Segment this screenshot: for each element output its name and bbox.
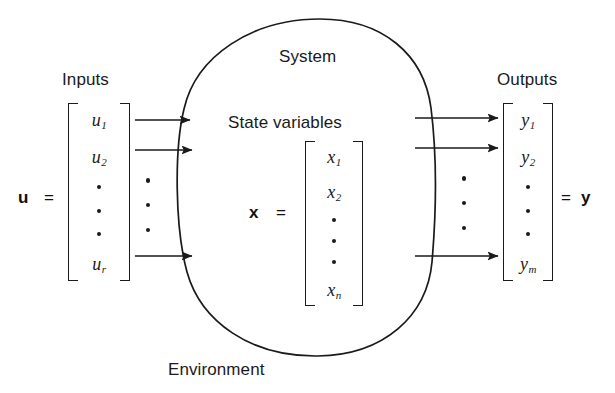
input-arrow-dot-3 xyxy=(146,228,151,233)
output-bracket-left xyxy=(503,103,513,281)
state-ellipsis-dot-1 xyxy=(332,218,336,222)
output-arrow-dot-1 xyxy=(462,176,467,181)
system-block-diagram: Inputs System State variables Outputs En… xyxy=(0,0,615,393)
output-arrow-dot-2 xyxy=(462,201,467,206)
state-vector-bracket: x1 x2 xn xyxy=(305,141,363,306)
output-arrow-ellipsis xyxy=(461,176,467,230)
input-ellipsis-dot-1 xyxy=(97,185,101,189)
output-vector-bracket: y1 y2 ym xyxy=(503,103,553,281)
input-entry-2: u2 xyxy=(92,148,107,166)
state-entry-last: xn xyxy=(327,281,341,299)
state-ellipsis-dot-2 xyxy=(332,239,336,243)
state-vector-equals: = xyxy=(276,203,286,223)
environment-label: Environment xyxy=(168,360,265,380)
state-variables-label: State variables xyxy=(228,113,342,133)
state-bracket-right xyxy=(353,141,363,306)
input-bracket-right xyxy=(120,103,130,281)
output-entry-last: ym xyxy=(520,255,536,273)
output-ellipsis-dot-2 xyxy=(526,209,530,213)
outputs-label: Outputs xyxy=(497,70,557,90)
input-arrow-dot-1 xyxy=(146,178,151,183)
input-bracket-left xyxy=(68,103,78,281)
state-entry-1: x1 xyxy=(327,148,341,166)
input-vector-equals: = xyxy=(44,188,54,208)
output-arrow-dot-3 xyxy=(462,226,467,231)
input-entry-last: ur xyxy=(92,255,105,273)
input-ellipsis-dot-3 xyxy=(97,232,101,236)
input-vector-name: u xyxy=(18,188,28,208)
output-vector-name: y xyxy=(581,188,590,208)
state-bracket-left xyxy=(305,141,315,306)
output-ellipsis-dot-1 xyxy=(526,185,530,189)
output-vector-equals: = xyxy=(561,188,571,208)
state-entry-2: x2 xyxy=(327,183,341,201)
output-entry-1: y1 xyxy=(521,111,535,129)
output-bracket-right xyxy=(543,103,553,281)
input-entry-1: u1 xyxy=(92,111,107,129)
inputs-label: Inputs xyxy=(62,70,109,90)
input-vector-bracket: u1 u2 ur xyxy=(68,103,130,281)
output-ellipsis-dot-3 xyxy=(526,232,530,236)
input-arrow-dot-2 xyxy=(146,203,151,208)
output-entry-2: y2 xyxy=(521,148,535,166)
state-vector-name: x xyxy=(249,203,258,223)
input-arrow-ellipsis xyxy=(145,178,151,232)
state-ellipsis-dot-3 xyxy=(332,260,336,264)
input-ellipsis-dot-2 xyxy=(97,209,101,213)
system-label: System xyxy=(279,47,336,67)
